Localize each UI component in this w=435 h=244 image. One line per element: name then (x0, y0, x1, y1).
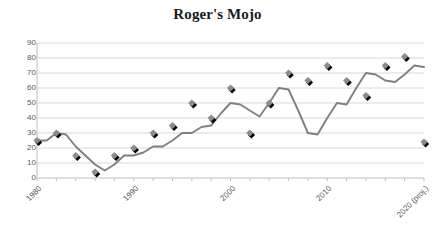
x-axis-tick-labels: 19801990200020102020 (proj.) (0, 0, 435, 244)
x-tick-label: 2010 (257, 184, 334, 244)
x-tick-label: 2020 (proj.) (353, 184, 430, 244)
x-tick-label: 1990 (63, 184, 140, 244)
x-tick-label: 2000 (160, 184, 237, 244)
x-tick-label: 1980 (0, 184, 43, 244)
chart-container: Roger's Mojo 0102030405060708090 1980199… (0, 0, 435, 244)
